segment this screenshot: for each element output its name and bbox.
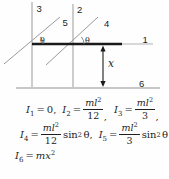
equation-I1: I1 = 0, xyxy=(26,104,56,115)
equation-I2: I2 = ml2 12 , xyxy=(62,98,107,122)
equation-I6: I6 = mx2 xyxy=(15,150,55,161)
sin-function: sin xyxy=(142,129,157,140)
axis-label-2: 2 xyxy=(77,4,82,15)
equation-I4: I4 = ml2 12 sin2θ, xyxy=(20,123,93,147)
fraction-I3: ml2 3 xyxy=(135,98,155,122)
formula-row-2: I4 = ml2 12 sin2θ, I5 = ml2 3 sin2θ xyxy=(20,123,162,147)
sin-function: sin xyxy=(63,129,78,140)
axis-line-4 xyxy=(46,17,98,65)
arrowhead-up-icon xyxy=(100,46,105,52)
theta-label-left: θ xyxy=(40,36,45,45)
equation-I5: I5 = ml2 3 sin2θ xyxy=(99,123,168,147)
inertia-formulas: I1 = 0, I2 = ml2 12 , I3 = ml2 3 xyxy=(0,94,162,161)
symbol-I6: I6 xyxy=(15,150,23,161)
symbol-I1: I1 xyxy=(26,104,34,115)
physics-figure-moment-of-inertia: 3 2 5 4 1 6 θ θ x I1 = 0, I2 = ml2 12 , xyxy=(0,0,162,179)
axis-label-5: 5 xyxy=(63,17,68,28)
symbol-I5: I5 xyxy=(99,129,107,140)
fraction-I2: ml2 12 xyxy=(83,98,103,122)
equation-I3: I3 = ml2 3 , xyxy=(114,98,159,122)
axis-label-3: 3 xyxy=(37,3,42,14)
symbol-I3: I3 xyxy=(114,104,122,115)
rod-axes-diagram: 3 2 5 4 1 6 θ θ x xyxy=(0,0,162,95)
symbol-I4: I4 xyxy=(20,129,28,140)
formula-row-1: I1 = 0, I2 = ml2 12 , I3 = ml2 3 xyxy=(26,98,162,122)
formula-row-3: I6 = mx2 xyxy=(15,150,162,161)
fraction-I4: ml2 12 xyxy=(41,123,61,147)
fraction-I5: ml2 3 xyxy=(119,123,139,147)
symbol-I2: I2 xyxy=(62,104,70,115)
value-I6: mx2 xyxy=(36,150,55,161)
theta-label-right: θ xyxy=(85,36,90,45)
value-I1: 0, xyxy=(47,104,57,115)
axis-label-4: 4 xyxy=(104,18,109,29)
axis-label-1: 1 xyxy=(143,34,148,45)
axis-label-6: 6 xyxy=(139,78,144,89)
x-distance-label: x xyxy=(108,57,114,69)
arrowhead-down-icon xyxy=(100,81,105,87)
